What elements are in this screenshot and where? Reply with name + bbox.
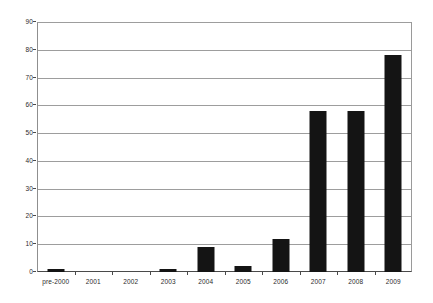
y-axis-tick-label: 50 bbox=[2, 129, 33, 136]
x-axis-tick-mark bbox=[187, 272, 188, 275]
y-axis-tick-mark bbox=[33, 271, 36, 272]
y-axis-tick-label: 80 bbox=[2, 46, 33, 53]
bar-slot bbox=[262, 22, 300, 272]
y-axis-tick-label: 30 bbox=[2, 185, 33, 192]
bar-slot bbox=[187, 22, 225, 272]
y-axis-tick-label: 20 bbox=[2, 212, 33, 219]
x-axis-tick-mark bbox=[112, 272, 113, 275]
x-axis-tick-mark bbox=[262, 272, 263, 275]
y-axis-tick-mark bbox=[33, 104, 36, 105]
y-axis-tick-label: 0 bbox=[2, 268, 33, 275]
bar bbox=[385, 55, 402, 272]
y-axis-tick-mark bbox=[33, 132, 36, 133]
bar bbox=[310, 111, 327, 272]
x-axis-tick-mark bbox=[300, 272, 301, 275]
bar-slot bbox=[375, 22, 413, 272]
bar-slot bbox=[150, 22, 188, 272]
y-axis-tick-mark bbox=[33, 188, 36, 189]
y-axis: 0102030405060708090 bbox=[0, 0, 33, 303]
x-axis-tick-label: 2009 bbox=[375, 278, 413, 286]
x-axis-tick-label: 2004 bbox=[187, 278, 225, 286]
y-axis-tick-mark bbox=[33, 77, 36, 78]
bar bbox=[197, 247, 214, 272]
y-axis-tick-label: 60 bbox=[2, 101, 33, 108]
x-axis-tick-label: 2001 bbox=[75, 278, 113, 286]
y-axis-tick-mark bbox=[33, 160, 36, 161]
bar-slot bbox=[75, 22, 113, 272]
bars-layer bbox=[37, 22, 412, 272]
bar-slot bbox=[337, 22, 375, 272]
x-axis-tick-label: 2002 bbox=[112, 278, 150, 286]
bar-slot bbox=[225, 22, 263, 272]
bar bbox=[272, 239, 289, 272]
bar-slot bbox=[37, 22, 75, 272]
x-axis-tick-label: 2005 bbox=[225, 278, 263, 286]
y-axis-tick-mark bbox=[33, 21, 36, 22]
bar-chart: 0102030405060708090 pre-2000200120022003… bbox=[0, 0, 433, 303]
x-axis-tick-mark bbox=[375, 272, 376, 275]
bar-slot bbox=[112, 22, 150, 272]
y-axis-tick-mark bbox=[33, 243, 36, 244]
x-axis-tick-label: 2008 bbox=[337, 278, 375, 286]
x-axis-tick-mark bbox=[150, 272, 151, 275]
x-axis-tick-mark bbox=[75, 272, 76, 275]
x-axis-tick-label: 2003 bbox=[150, 278, 188, 286]
y-axis-tick-label: 90 bbox=[2, 18, 33, 25]
bar bbox=[347, 111, 364, 272]
x-axis-tick-mark bbox=[337, 272, 338, 275]
y-axis-tick-label: 70 bbox=[2, 74, 33, 81]
x-axis-tick-label: 2007 bbox=[300, 278, 338, 286]
y-axis-tick-label: 40 bbox=[2, 157, 33, 164]
bar-slot bbox=[300, 22, 338, 272]
x-axis-tick-mark bbox=[225, 272, 226, 275]
y-axis-tick-mark bbox=[33, 49, 36, 50]
x-axis: pre-200020012002200320042005200620072008… bbox=[37, 272, 412, 303]
x-axis-tick-label: pre-2000 bbox=[37, 278, 75, 286]
x-axis-tick-label: 2006 bbox=[262, 278, 300, 286]
y-axis-tick-mark bbox=[33, 215, 36, 216]
y-axis-tick-label: 10 bbox=[2, 240, 33, 247]
